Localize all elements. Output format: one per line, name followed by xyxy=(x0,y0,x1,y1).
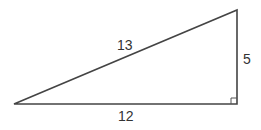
height-label: 5 xyxy=(243,52,251,66)
right-angle-marker xyxy=(231,98,237,104)
hypotenuse-label: 13 xyxy=(117,38,133,52)
triangle-diagram: 13 12 5 xyxy=(0,0,261,130)
right-triangle-shape xyxy=(14,10,237,104)
base-label: 12 xyxy=(118,109,134,123)
